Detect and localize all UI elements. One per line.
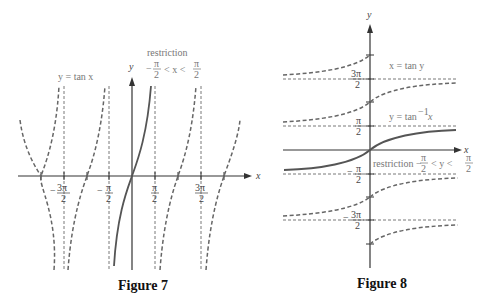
svg-text:π: π [194, 58, 199, 69]
svg-text:π: π [356, 115, 361, 126]
svg-text:2: 2 [194, 69, 199, 80]
svg-text:−: − [347, 166, 353, 177]
figures-canvas: y = tan x y x restriction − π 2 < x < π … [0, 0, 486, 304]
tan-branch-neg-pi-dashed [41, 86, 59, 270]
tan-branch-neg-2pi-upper [20, 120, 41, 176]
svg-text:3π: 3π [57, 182, 67, 193]
svg-text:y = tan: y = tan [389, 111, 417, 122]
figure-7-caption: Figure 7 [118, 278, 168, 293]
svg-text:−: − [97, 185, 103, 196]
tan-branch-neg-pi [68, 86, 105, 270]
svg-text:3π: 3π [351, 68, 361, 79]
svg-text:−: − [50, 185, 56, 196]
restriction-inequality: restriction − π 2 < y < π 2 [373, 152, 473, 174]
tick-label-neg-pi-2: − π 2 [347, 163, 363, 185]
svg-text:π: π [421, 152, 426, 163]
svg-text:2: 2 [466, 163, 471, 174]
curve-label-tan-y: x = tan y [389, 60, 424, 71]
svg-text:2: 2 [61, 193, 66, 204]
figure-8: y x x = tan y y = tan −1 x restriction −… [283, 9, 473, 291]
curve-label-arctan: y = tan −1 x [389, 106, 433, 122]
svg-text:2: 2 [356, 174, 361, 185]
svg-text:−: − [146, 63, 152, 74]
arctan-branch-neg-pi-right [370, 178, 458, 197]
tick-label-pi-2: π 2 [151, 182, 159, 204]
svg-text:2: 2 [106, 193, 111, 204]
svg-text:2: 2 [421, 163, 426, 174]
tan-branch-2pi [206, 120, 240, 270]
x-axis-arrow-icon [244, 173, 252, 179]
svg-text:2: 2 [154, 69, 159, 80]
tick-label-neg-3pi-2: − 3π 2 [50, 182, 70, 204]
svg-text:x: x [427, 111, 433, 122]
svg-text:π: π [154, 58, 159, 69]
tick-label-pi-2: π 2 [355, 115, 363, 137]
svg-text:π: π [356, 163, 361, 174]
svg-text:π: π [152, 182, 157, 193]
y-axis-label: y [128, 61, 134, 72]
svg-text:2: 2 [355, 220, 360, 231]
svg-text:2: 2 [356, 126, 361, 137]
svg-text:3π: 3π [195, 182, 205, 193]
svg-text:2: 2 [152, 193, 157, 204]
svg-text:< y <: < y < [431, 158, 453, 169]
svg-text:π: π [466, 152, 471, 163]
restriction-title: restriction [147, 47, 188, 58]
svg-text:2: 2 [199, 193, 204, 204]
figure-8-caption: Figure 8 [357, 276, 407, 291]
y-axis-arrow-icon [367, 24, 373, 33]
tick-label-neg-pi-2: − π 2 [97, 182, 113, 204]
x-axis-label: x [255, 170, 261, 181]
tick-label-neg-3pi-2: − 3π 2 [343, 209, 364, 231]
tick-label-3pi-2: 3π 2 [351, 68, 364, 90]
svg-text:2: 2 [355, 79, 360, 90]
tick-label-3pi-2: 3π 2 [195, 182, 208, 204]
y-axis-label: y [366, 9, 372, 20]
svg-text:restriction −: restriction − [373, 158, 422, 169]
svg-text:π: π [106, 182, 111, 193]
x-axis-arrow-icon [454, 147, 462, 153]
curve-label-tan: y = tan x [58, 71, 93, 82]
tan-branch-pi [160, 86, 196, 270]
restriction-inequality: − π 2 < x < π 2 [146, 58, 201, 80]
svg-text:3π: 3π [351, 209, 361, 220]
y-axis-arrow-icon [129, 77, 135, 86]
figure-7: y = tan x y x restriction − π 2 < x < π … [18, 47, 261, 293]
svg-text:−: − [343, 212, 349, 223]
arctan-branch-neg-2pi [370, 225, 458, 244]
svg-text:< x <: < x < [164, 64, 186, 75]
